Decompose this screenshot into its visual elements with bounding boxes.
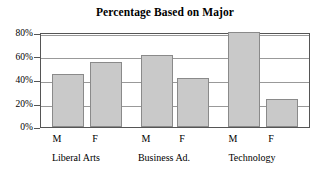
y-axis: 80% 60% 40% 20% 0%: [0, 0, 36, 180]
x-tick-label-business-ad-m: M: [130, 133, 162, 144]
y-tick-label-20: 20%: [0, 99, 33, 109]
bar-liberal-arts-m: [52, 74, 84, 127]
x-tick-label-liberal-arts-m: M: [41, 133, 73, 144]
bar-liberal-arts-f: [90, 62, 122, 127]
y-tick-label-80: 80%: [0, 28, 33, 38]
y-tick-label-40: 40%: [0, 75, 33, 85]
gridline-90: [41, 35, 309, 36]
bar-technology-m: [228, 32, 260, 127]
plot-area: [40, 33, 310, 128]
bar-business-ad-m: [141, 55, 173, 127]
x-tick-label-technology-f: F: [255, 133, 287, 144]
y-tick-label-0: 0%: [0, 122, 33, 132]
y-tick-label-60: 60%: [0, 52, 33, 62]
bar-chart: Percentage Based on Major 80% 60% 40% 20…: [0, 0, 330, 180]
x-tick-label-technology-m: M: [217, 133, 249, 144]
x-tick-label-business-ad-f: F: [166, 133, 198, 144]
x-tick-label-liberal-arts-f: F: [79, 133, 111, 144]
bar-business-ad-f: [177, 78, 209, 127]
group-label-business-ad: Business Ad.: [128, 152, 200, 163]
gridline-70: [41, 58, 309, 59]
chart-title: Percentage Based on Major: [0, 6, 330, 18]
group-label-liberal-arts: Liberal Arts: [40, 152, 112, 163]
group-label-technology: Technology: [216, 152, 288, 163]
bar-technology-f: [266, 99, 298, 127]
